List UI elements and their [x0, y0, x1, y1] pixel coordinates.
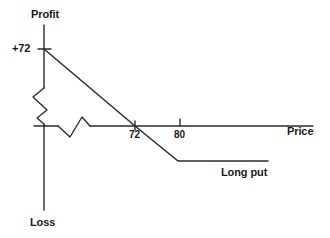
payoff-chart-canvas — [0, 0, 330, 238]
x-axis-break-zigzag — [58, 117, 90, 137]
long-put-series-label: Long put — [221, 167, 267, 178]
long-put-path — [44, 49, 268, 161]
y-axis — [33, 25, 47, 210]
y-axis-loss-label: Loss — [30, 217, 55, 228]
x-axis-tick-label-72: 72 — [129, 129, 140, 140]
x-axis-price-label: Price — [287, 126, 313, 137]
option-payoff-diagram: Profit +72 72 80 Price Long put Loss — [0, 0, 330, 238]
y-axis-profit-label: Profit — [31, 9, 59, 20]
y-axis-value-label-72: +72 — [12, 43, 30, 54]
long-put-payoff-line — [44, 49, 268, 161]
x-axis-tick-label-80: 80 — [174, 129, 185, 140]
y-axis-break-zigzag — [33, 88, 47, 124]
